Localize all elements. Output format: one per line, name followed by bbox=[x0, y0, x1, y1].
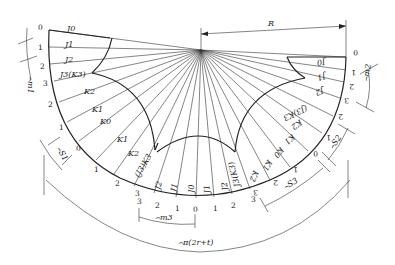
svg-text:K2: K2 bbox=[127, 149, 139, 158]
svg-text:K2: K2 bbox=[83, 87, 95, 96]
left-top-edge bbox=[49, 30, 110, 38]
right-station-numbers: 0 1 2 3 2 1 0 1 2 3 bbox=[253, 48, 358, 197]
svg-text:0: 0 bbox=[313, 149, 318, 158]
transition-piece-development-diagram: R ⌢π(2r+t) 0 1 2 3 2 1 0 1 2 3 J0 J1 J2 … bbox=[0, 0, 395, 265]
svg-text:2: 2 bbox=[48, 100, 53, 109]
m1-dimension: ⌢m1 bbox=[18, 28, 37, 94]
svg-text:2: 2 bbox=[231, 201, 236, 210]
middle-sector-labels: J2 J1 J0 J1 J2 J3(K3) bbox=[153, 161, 243, 196]
svg-text:K1: K1 bbox=[116, 135, 128, 144]
svg-text:1: 1 bbox=[94, 165, 99, 174]
svg-text:3: 3 bbox=[137, 197, 142, 206]
svg-text:2: 2 bbox=[115, 179, 120, 188]
svg-text:J1: J1 bbox=[63, 40, 73, 49]
svg-text:K1: K1 bbox=[282, 132, 297, 147]
svg-text:J0: J0 bbox=[187, 184, 196, 195]
inner-curve-right-upper bbox=[287, 57, 305, 78]
svg-text:0: 0 bbox=[193, 205, 198, 214]
svg-text:2: 2 bbox=[338, 112, 343, 121]
svg-text:⌢S3: ⌢S3 bbox=[282, 176, 300, 192]
radius-label: R bbox=[267, 19, 274, 28]
svg-text:J3(K3): J3(K3) bbox=[58, 70, 86, 79]
svg-text:1: 1 bbox=[293, 165, 298, 174]
svg-text:J1: J1 bbox=[316, 71, 328, 82]
svg-text:1: 1 bbox=[213, 204, 218, 213]
svg-text:K0: K0 bbox=[272, 144, 287, 159]
svg-text:J0: J0 bbox=[316, 57, 328, 68]
svg-text:3: 3 bbox=[43, 79, 48, 88]
outer-arc-length-label: ⌢π(2r+t) bbox=[178, 238, 213, 247]
svg-text:0: 0 bbox=[38, 23, 43, 32]
s1-dimension: ⌢S1 bbox=[40, 137, 72, 170]
m3-dimension: ⌢m3 bbox=[139, 208, 195, 228]
svg-text:⌢m1: ⌢m1 bbox=[26, 76, 35, 94]
svg-text:J2: J2 bbox=[220, 181, 231, 193]
svg-text:1: 1 bbox=[175, 204, 180, 213]
svg-text:3: 3 bbox=[344, 96, 349, 105]
svg-text:⌢m3: ⌢m3 bbox=[155, 213, 173, 222]
svg-text:1: 1 bbox=[59, 123, 64, 132]
svg-text:K0: K0 bbox=[99, 117, 111, 126]
svg-text:1: 1 bbox=[38, 43, 43, 52]
inner-curve-middle-left bbox=[155, 143, 158, 150]
middle-station-numbers: 3 2 1 0 1 2 3 bbox=[137, 195, 256, 214]
svg-text:K2: K2 bbox=[248, 168, 261, 182]
svg-text:K1: K1 bbox=[91, 105, 103, 114]
svg-text:⌢m2: ⌢m2 bbox=[361, 63, 373, 82]
svg-text:0: 0 bbox=[76, 144, 81, 153]
s2-dimension: ⌢S2 bbox=[322, 124, 355, 166]
svg-text:2: 2 bbox=[273, 178, 278, 187]
svg-text:3: 3 bbox=[253, 188, 258, 197]
svg-text:J1: J1 bbox=[202, 185, 212, 196]
svg-text:(J3)K3: (J3)K3 bbox=[282, 104, 309, 123]
m2-dimension: ⌢m2 bbox=[356, 63, 378, 112]
svg-text:1: 1 bbox=[351, 68, 356, 77]
svg-text:J2: J2 bbox=[63, 55, 73, 64]
svg-text:J0: J0 bbox=[65, 24, 75, 33]
inner-curve-left-upper bbox=[92, 38, 112, 73]
svg-text:J2: J2 bbox=[314, 85, 327, 97]
svg-text:J1: J1 bbox=[169, 183, 180, 195]
svg-text:K1: K1 bbox=[260, 157, 274, 172]
inner-curve-middle bbox=[157, 136, 235, 152]
svg-text:2: 2 bbox=[155, 201, 160, 210]
svg-text:2: 2 bbox=[40, 62, 45, 71]
svg-text:2: 2 bbox=[349, 82, 354, 91]
svg-text:0: 0 bbox=[353, 48, 358, 57]
